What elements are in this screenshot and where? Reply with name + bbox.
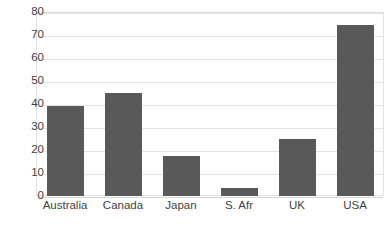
x-tick-label: Japan — [152, 199, 210, 212]
bar-uk[interactable] — [279, 139, 316, 197]
x-tick-label: UK — [268, 199, 326, 212]
x-axis: AustraliaCanadaJapanS. AfrUKUSA — [36, 199, 384, 212]
bar-chart: 01020304050607080 AustraliaCanadaJapanS.… — [0, 0, 391, 241]
x-tick-label: S. Afr — [210, 199, 268, 212]
x-tick-label: Canada — [94, 199, 152, 212]
bar-slot — [326, 12, 384, 196]
bar-canada[interactable] — [105, 93, 142, 197]
bar-slot — [94, 12, 152, 196]
bar-slot — [152, 12, 210, 196]
bar-japan[interactable] — [163, 156, 200, 196]
bar-australia[interactable] — [47, 106, 84, 196]
bar-usa[interactable] — [337, 25, 374, 196]
gridline-0 — [37, 197, 383, 198]
bars-group — [36, 12, 384, 196]
bar-slot — [210, 12, 268, 196]
bar-s-afr[interactable] — [221, 188, 258, 196]
x-tick-label: USA — [326, 199, 384, 212]
bar-slot — [36, 12, 94, 196]
bar-slot — [268, 12, 326, 196]
x-tick-label: Australia — [36, 199, 94, 212]
